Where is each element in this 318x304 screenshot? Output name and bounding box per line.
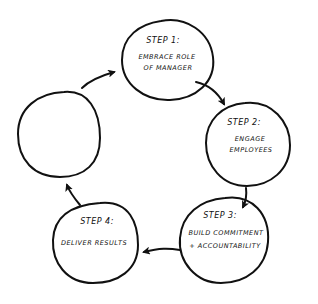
empty-step-circle <box>18 92 100 177</box>
step-4-title: STEP 4: <box>80 217 114 226</box>
arrow-step4-to-empty <box>67 185 80 205</box>
step-1-line-1: EMBRACE ROLE <box>138 52 195 63</box>
step-1-title: STEP 1: <box>146 36 180 45</box>
arrow-empty-to-step1 <box>82 72 114 88</box>
step-2-line-1: ENGAGE <box>235 134 266 145</box>
step-3-line-2: + ACCOUNTABILITY <box>189 241 260 252</box>
step-1-line-2: OF MANAGER <box>144 63 193 74</box>
step-2-title: STEP 2: <box>227 118 261 127</box>
step-4-line-1: DELIVER RESULTS <box>61 238 127 249</box>
cycle-diagram: STEP 1: EMBRACE ROLE OF MANAGER STEP 2: … <box>0 0 318 304</box>
arrow-step3-to-step4 <box>144 249 180 252</box>
step-3-title: STEP 3: <box>203 211 237 220</box>
step-2-line-2: EMPLOYEES <box>230 145 273 156</box>
step-3-line-1: BUILD COMMITMENT <box>188 228 263 239</box>
arrow-step1-to-step2 <box>196 82 224 104</box>
arrow-step2-to-step3 <box>243 188 246 207</box>
